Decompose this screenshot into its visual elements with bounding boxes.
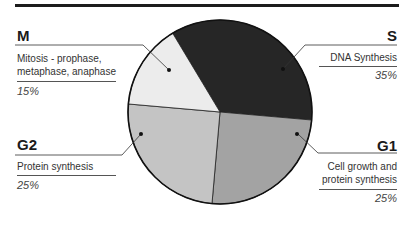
label-g2-rule: [17, 175, 116, 176]
label-g1-rule: [319, 189, 397, 190]
leader-dot-m: [167, 68, 171, 72]
leader-dot-g1: [295, 132, 299, 136]
label-m-rule: [17, 81, 116, 82]
label-g1-percent: 25%: [375, 192, 397, 204]
label-s-percent: 35%: [375, 69, 397, 81]
pie-slices: [128, 20, 312, 204]
label-g2-desc: Protein synthesis: [17, 160, 93, 173]
label-s-desc: DNA Synthesis: [330, 51, 397, 64]
label-s-rule: [319, 66, 397, 67]
pie-slice-g2: [128, 104, 220, 204]
label-g2-percent: 25%: [17, 179, 39, 191]
label-s-code: S: [387, 27, 397, 44]
leader-dot-g2: [139, 132, 143, 136]
label-g1-desc-2: protein synthesis: [322, 173, 397, 186]
label-m-code: M: [17, 27, 30, 44]
label-g2-code: G2: [17, 136, 37, 153]
label-m-percent: 15%: [17, 85, 39, 97]
label-g1-code: G1: [377, 137, 397, 154]
label-m-desc-1: Mitosis - prophase,: [17, 52, 101, 65]
label-m-desc-2: metaphase, anaphase: [17, 65, 116, 78]
pie-slice-g1: [212, 112, 312, 204]
leader-dot-s: [281, 67, 285, 71]
label-g1-desc-1: Cell growth and: [328, 160, 397, 173]
